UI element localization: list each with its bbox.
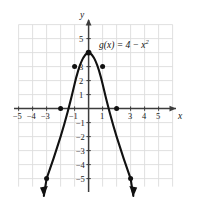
y-tick-label-5: 5 bbox=[79, 35, 83, 44]
function-equation-text: g(x) = 4 − x bbox=[99, 40, 146, 50]
y-tick-label--1: −1 bbox=[76, 119, 85, 128]
point-marker bbox=[114, 106, 119, 111]
grid-lines bbox=[19, 25, 173, 187]
y-tick-label-2: 2 bbox=[79, 77, 83, 86]
function-equation-label: g(x) = 4 − x2 bbox=[99, 39, 149, 51]
x-tick-label-1: 1 bbox=[100, 112, 104, 121]
axis-lines bbox=[14, 19, 176, 192]
x-tick-label--4: −4 bbox=[27, 112, 36, 121]
curve-arrow-right bbox=[129, 186, 137, 197]
graph-figure: −5 −4 −3 −1 1 3 4 5 5 3 2 1 −1 −2 −3 −4 … bbox=[0, 0, 198, 204]
y-axis-label: y bbox=[80, 11, 84, 21]
point-marker bbox=[72, 64, 77, 69]
cartesian-plot bbox=[0, 0, 198, 204]
x-tick-label-3: 3 bbox=[128, 112, 132, 121]
x-tick-label-5: 5 bbox=[156, 112, 160, 121]
curve-arrow-left bbox=[40, 186, 48, 197]
y-axis-arrow bbox=[86, 19, 92, 26]
y-tick-label-1: 1 bbox=[79, 91, 83, 100]
point-marker bbox=[86, 50, 92, 56]
point-marker bbox=[58, 106, 63, 111]
y-tick-label--4: −4 bbox=[76, 161, 85, 170]
y-tick-label-3: 3 bbox=[79, 63, 83, 72]
x-tick-label-4: 4 bbox=[142, 112, 146, 121]
function-equation-exponent: 2 bbox=[146, 38, 149, 45]
point-marker bbox=[128, 176, 133, 181]
point-marker bbox=[100, 64, 105, 69]
y-tick-label--2: −2 bbox=[76, 133, 85, 142]
y-tick-label--5: −5 bbox=[76, 175, 85, 184]
x-tick-label--5: −5 bbox=[13, 112, 22, 121]
x-axis-label: x bbox=[178, 112, 182, 122]
x-tick-label--3: −3 bbox=[41, 112, 50, 121]
y-tick-label--3: −3 bbox=[76, 147, 85, 156]
point-marker bbox=[44, 176, 49, 181]
